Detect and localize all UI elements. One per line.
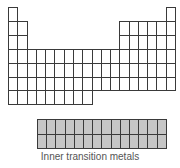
inner-transition-metals-label: Inner transition metals bbox=[0, 151, 180, 163]
inner-transition-cell bbox=[157, 134, 167, 149]
element-cell bbox=[166, 63, 176, 78]
element-cell bbox=[17, 21, 28, 36]
element-cell bbox=[8, 7, 18, 22]
element-cell bbox=[82, 90, 93, 105]
element-cell bbox=[166, 49, 176, 64]
element-cell bbox=[166, 21, 176, 36]
element-cell bbox=[166, 77, 176, 91]
element-cell bbox=[166, 7, 176, 22]
inner-transition-cell bbox=[157, 119, 167, 135]
element-cell bbox=[166, 35, 176, 50]
element-cell bbox=[17, 35, 28, 50]
